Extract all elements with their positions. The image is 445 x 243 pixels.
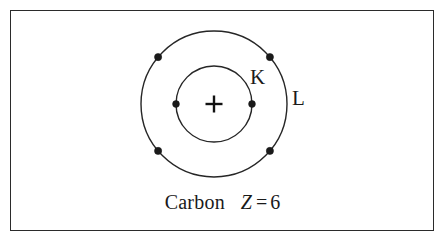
figure-caption: CarbonZ=6 [0,192,445,213]
electron-dot [266,54,273,61]
caption-equals-sign: = [254,191,269,213]
bohr-model-figure: K L CarbonZ=6 [0,0,445,243]
electron-dot [155,147,162,154]
electron-dot [249,101,256,108]
k-shell-label: K [250,67,265,88]
caption-atomic-number-symbol: Z [241,191,254,213]
nucleus-plus-icon [206,96,223,113]
electron-dot [173,101,180,108]
caption-atomic-number-value: 6 [269,191,280,213]
l-shell-label: L [292,88,305,109]
electron-dot [155,54,162,61]
caption-element-name: Carbon [165,191,225,213]
electron-dot [266,147,273,154]
